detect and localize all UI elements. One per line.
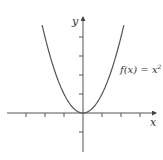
x-axis-label: x <box>150 116 157 129</box>
function-label-exponent: 2 <box>157 63 162 70</box>
y-axis-label: y <box>71 15 79 28</box>
function-graph: y x f(x) = x2 <box>0 0 163 160</box>
function-label: f(x) = x2 <box>119 63 162 75</box>
function-label-main: f(x) = x <box>119 64 158 75</box>
